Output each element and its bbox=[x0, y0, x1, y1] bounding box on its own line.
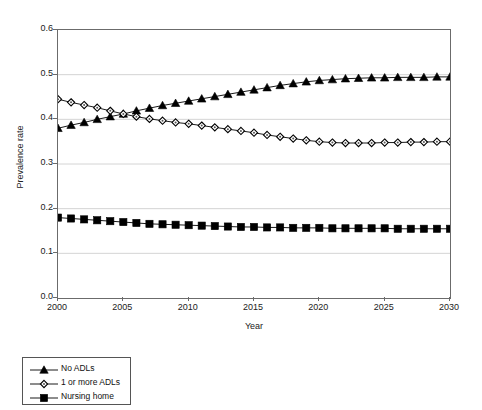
data-point-marker-center bbox=[318, 141, 320, 143]
data-point-marker-center bbox=[148, 118, 150, 120]
x-axis-tick-label: 2010 bbox=[168, 303, 208, 312]
x-axis-title: Year bbox=[57, 321, 451, 331]
legend-item-label: 1 or more ADLs bbox=[61, 377, 120, 387]
data-point-marker bbox=[58, 214, 62, 221]
data-point-marker bbox=[107, 218, 114, 225]
data-point-marker-center bbox=[70, 101, 72, 103]
x-axis-tick-mark bbox=[122, 297, 123, 301]
x-axis-tick-label: 2025 bbox=[364, 303, 404, 312]
x-axis-tick-mark bbox=[253, 297, 254, 301]
series-3 bbox=[58, 214, 450, 232]
chart-legend: No ADLs1 or more ADLsNursing home bbox=[22, 357, 131, 405]
data-point-marker bbox=[40, 366, 48, 373]
y-axis-tick-label: 0.6 bbox=[19, 24, 53, 33]
data-point-marker bbox=[277, 224, 284, 231]
data-point-marker bbox=[211, 222, 218, 229]
data-point-marker bbox=[433, 225, 440, 232]
data-point-marker-center bbox=[384, 142, 386, 144]
legend-marker-filledsquare-icon bbox=[29, 390, 59, 402]
data-point-marker bbox=[250, 223, 257, 230]
data-point-marker-center bbox=[109, 110, 111, 112]
data-point-marker bbox=[198, 222, 205, 229]
data-point-marker-center bbox=[344, 142, 346, 144]
data-point-marker-center bbox=[358, 142, 360, 144]
data-point-marker bbox=[263, 224, 270, 231]
data-point-marker bbox=[94, 217, 101, 224]
data-point-marker bbox=[185, 222, 192, 229]
data-point-marker bbox=[224, 223, 231, 230]
data-point-marker bbox=[159, 221, 166, 228]
x-axis-tick-label: 2020 bbox=[298, 303, 338, 312]
legend-item-3: Nursing home bbox=[29, 389, 114, 403]
plot-area bbox=[57, 29, 451, 299]
data-point-marker-center bbox=[96, 107, 98, 109]
legend-item-label: Nursing home bbox=[61, 391, 114, 401]
x-axis-tick-mark bbox=[449, 297, 450, 301]
y-axis-title: Prevalence rate bbox=[15, 102, 25, 212]
x-axis-tick-label: 2000 bbox=[37, 303, 77, 312]
y-axis-tick-label: 0.1 bbox=[19, 247, 53, 256]
data-point-marker-center bbox=[253, 132, 255, 134]
data-point-marker bbox=[446, 73, 450, 80]
data-point-marker bbox=[172, 221, 179, 228]
data-point-marker-center bbox=[43, 383, 45, 385]
data-point-marker-center bbox=[397, 142, 399, 144]
x-axis-tick-mark bbox=[57, 297, 58, 301]
data-point-marker bbox=[329, 225, 336, 232]
y-axis-tick-label: 0.0 bbox=[19, 292, 53, 301]
data-point-marker-center bbox=[279, 136, 281, 138]
data-point-marker-center bbox=[83, 104, 85, 106]
data-point-marker-center bbox=[175, 121, 177, 123]
data-point-marker-center bbox=[331, 142, 333, 144]
data-point-marker bbox=[67, 215, 74, 222]
data-point-marker bbox=[355, 225, 362, 232]
data-point-marker bbox=[394, 225, 401, 232]
series-2 bbox=[58, 96, 450, 147]
data-point-marker-center bbox=[122, 113, 124, 115]
data-point-marker-center bbox=[162, 120, 164, 122]
data-point-marker bbox=[342, 225, 349, 232]
legend-marker-opendiamond-icon bbox=[29, 376, 59, 388]
data-point-marker bbox=[420, 225, 427, 232]
data-point-marker-center bbox=[214, 126, 216, 128]
data-point-marker bbox=[133, 219, 140, 226]
data-point-marker bbox=[381, 225, 388, 232]
chart-figure: 0.00.10.20.30.40.50.6 Prevalence rate 20… bbox=[0, 0, 482, 410]
data-point-marker bbox=[407, 225, 414, 232]
data-point-marker-center bbox=[227, 128, 229, 130]
data-point-marker-center bbox=[201, 125, 203, 127]
legend-item-1: No ADLs bbox=[29, 361, 95, 375]
legend-sample-canvas bbox=[29, 392, 59, 404]
data-point-marker-center bbox=[135, 116, 137, 118]
data-point-marker bbox=[146, 220, 153, 227]
data-point-marker-center bbox=[305, 139, 307, 141]
x-axis-tick-mark bbox=[384, 297, 385, 301]
data-point-marker bbox=[81, 216, 88, 223]
legend-item-2: 1 or more ADLs bbox=[29, 375, 120, 389]
data-point-marker bbox=[316, 224, 323, 231]
data-point-marker bbox=[368, 225, 375, 232]
data-point-marker-center bbox=[188, 123, 190, 125]
x-axis-tick-label: 2015 bbox=[233, 303, 273, 312]
series-1 bbox=[58, 73, 450, 132]
data-point-marker bbox=[446, 225, 450, 232]
data-point-marker-center bbox=[292, 138, 294, 140]
x-axis-tick-mark bbox=[188, 297, 189, 301]
data-point-marker bbox=[303, 224, 310, 231]
data-point-marker bbox=[40, 394, 47, 401]
data-point-marker-center bbox=[240, 130, 242, 132]
legend-marker-filledtriangle-icon bbox=[29, 362, 59, 374]
legend-item-label: No ADLs bbox=[61, 363, 95, 373]
data-point-marker-center bbox=[266, 134, 268, 136]
data-point-marker-center bbox=[436, 141, 438, 143]
y-axis-tick-label: 0.5 bbox=[19, 69, 53, 78]
data-point-marker-center bbox=[423, 141, 425, 143]
data-point-marker bbox=[120, 218, 127, 225]
data-point-marker bbox=[237, 223, 244, 230]
data-point-marker bbox=[290, 224, 297, 231]
x-axis-tick-label: 2030 bbox=[429, 303, 469, 312]
plot-canvas bbox=[58, 30, 450, 298]
x-axis-tick-label: 2005 bbox=[102, 303, 142, 312]
data-point-marker-center bbox=[371, 142, 373, 144]
data-point-marker bbox=[433, 73, 441, 80]
